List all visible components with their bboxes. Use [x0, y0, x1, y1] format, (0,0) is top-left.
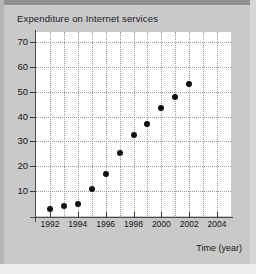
- y-axis-tick-label: 70: [8, 36, 28, 47]
- data-point: [75, 201, 81, 207]
- data-point: [61, 203, 67, 209]
- y-axis-tick-label: 50: [8, 86, 28, 97]
- x-axis-tick-label: 2000: [146, 219, 176, 229]
- data-point: [89, 186, 95, 192]
- x-axis-tick-label: 2004: [202, 219, 232, 229]
- gridline-vertical: [161, 32, 163, 216]
- figure-bottom-edge: [0, 264, 256, 274]
- gridline-vertical: [78, 32, 80, 216]
- y-axis-tick: [30, 92, 36, 93]
- x-axis-tick-label: 1994: [63, 219, 93, 229]
- data-point: [131, 132, 137, 138]
- y-axis-tick: [30, 67, 36, 68]
- y-axis-tick-label: 40: [8, 111, 28, 122]
- x-axis-tick-label: 1996: [91, 219, 121, 229]
- gridline-vertical: [50, 32, 52, 216]
- gridline-vertical: [217, 32, 219, 216]
- data-point: [117, 150, 123, 156]
- plot-area: [36, 32, 231, 216]
- x-axis-tick: [161, 212, 162, 218]
- chart-title: Expenditure on Internet services: [17, 13, 158, 24]
- y-axis-tick-label: 60: [8, 61, 28, 72]
- gridline-vertical: [106, 32, 108, 216]
- y-axis-tick: [30, 117, 36, 118]
- gridline-vertical: [134, 32, 136, 216]
- gridline-vertical: [64, 32, 66, 216]
- figure-left-edge: [0, 0, 4, 274]
- x-axis-tick: [106, 212, 107, 218]
- x-axis-tick: [78, 212, 79, 218]
- x-axis-tick-label: 2002: [174, 219, 204, 229]
- data-point: [172, 94, 178, 100]
- y-axis-tick: [30, 166, 36, 167]
- x-axis-tick: [189, 212, 190, 218]
- y-axis-tick-label: 30: [8, 135, 28, 146]
- y-axis-tick: [30, 191, 36, 192]
- data-point: [103, 171, 109, 177]
- gridline-vertical: [175, 32, 177, 216]
- figure-right-edge: [250, 0, 256, 274]
- chart-figure: Expenditure on Internet services 1020304…: [0, 0, 256, 274]
- x-axis-tick: [50, 212, 51, 218]
- x-axis-tick-label: 1992: [35, 219, 65, 229]
- x-axis-tick: [217, 212, 218, 218]
- gridline-vertical: [203, 32, 205, 216]
- y-axis-tick: [30, 42, 36, 43]
- data-point: [47, 206, 53, 212]
- gridline-vertical: [120, 32, 122, 216]
- y-axis-tick: [30, 141, 36, 142]
- x-axis-tick: [134, 212, 135, 218]
- x-axis-tick-label: 1998: [119, 219, 149, 229]
- gridline-vertical: [189, 32, 191, 216]
- figure-top-edge: [0, 0, 256, 5]
- x-axis-title: Time (year): [196, 243, 242, 253]
- y-axis-line: [35, 30, 36, 222]
- y-axis-tick-label: 10: [8, 185, 28, 196]
- y-axis-tick-label: 20: [8, 160, 28, 171]
- x-axis-line: [30, 217, 233, 218]
